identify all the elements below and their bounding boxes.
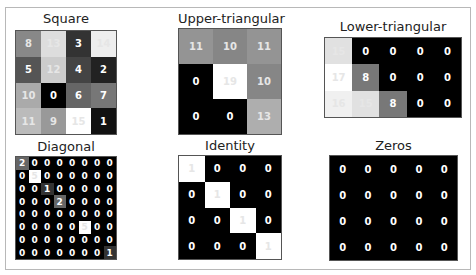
matrix-cell: 0 — [330, 182, 355, 208]
matrix-cell: 0 — [406, 182, 431, 208]
matrix-cell: 0 — [406, 234, 431, 260]
matrix-cell: 0 — [355, 156, 380, 182]
matrix-cell: 0 — [355, 182, 380, 208]
panel-title: Zeros — [329, 138, 458, 153]
matrix-cell: 0 — [432, 156, 457, 182]
matrix-cell: 0 — [432, 208, 457, 234]
matrix-cell: 0 — [381, 234, 406, 260]
matrix-cell: 0 — [432, 182, 457, 208]
matrix-cell: 0 — [330, 156, 355, 182]
matrix-cell: 0 — [355, 208, 380, 234]
matrix-cell: 0 — [381, 182, 406, 208]
matrix-cell: 0 — [381, 208, 406, 234]
matrix-cell: 0 — [406, 208, 431, 234]
matrix-cell: 0 — [406, 156, 431, 182]
panel-zeros: Zeros 00000000000000000000 — [0, 0, 476, 275]
matrix-cell: 0 — [330, 234, 355, 260]
matrix-heatmap: 00000000000000000000 — [329, 155, 458, 261]
matrix-cell: 0 — [355, 234, 380, 260]
matrix-cell: 0 — [330, 208, 355, 234]
matrix-cell: 0 — [381, 156, 406, 182]
matrix-cell: 0 — [432, 234, 457, 260]
